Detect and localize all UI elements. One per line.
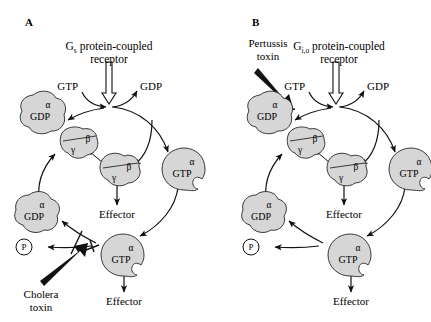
gtp-label-right-b: GTP [400,168,419,179]
receptor-title-line2-b: receptor [320,53,358,66]
gamma-label-free-a: γ [111,173,116,183]
phosphate-label-a: P [21,242,26,252]
alpha-label-top-a: α [46,100,51,110]
alpha-label-right-b: α [417,157,422,167]
receptor-g-b: G [293,40,301,52]
effector-alpha-a: Effector [106,295,142,307]
gdp-label-bottom-b: GDP [251,211,271,222]
gdp-label-top-a: GDP [30,111,50,122]
cholera-toxin-label-line1-a: Cholera [24,288,59,300]
alpha-label-bottom-b: α [267,200,272,210]
pertussis-toxin-label-line1-b: Pertussis [248,37,287,49]
gtp-label-bottom-b: GTP [339,254,358,265]
gamma-label-top-b: γ [297,145,302,155]
gamma-label-top-a: γ [70,145,75,155]
gdp-label-a: GDP [140,80,162,92]
beta-label-top-a: β [86,134,91,144]
g-protein-cycle-figure: A Gs protein-coupled receptor GTP GDP α … [0,0,431,322]
receptor-g-a: G [66,40,74,52]
panel-letter-b: B [252,16,260,28]
panel-letter-a: A [25,16,33,28]
text-layer: A Gs protein-coupled receptor GTP GDP α … [0,0,431,322]
beta-label-free-a: β [127,162,132,172]
beta-label-free-b: β [354,162,359,172]
pertussis-toxin-label-line2-b: toxin [257,50,280,62]
alpha-label-gtp-bottom-b: α [356,243,361,253]
receptor-rest-b: protein-coupled [309,40,385,53]
alpha-label-bottom-a: α [40,200,45,210]
effector-alpha-b: Effector [333,295,369,307]
gtp-label-a: GTP [57,80,78,92]
receptor-title-line2-a: receptor [90,53,128,66]
gdp-label-b: GDP [367,80,389,92]
gtp-label-b: GTP [284,80,305,92]
alpha-label-gtp-bottom-a: α [129,243,134,253]
effector-betagamma-a: Effector [99,208,135,220]
phosphate-label-b: P [248,242,253,252]
gtp-label-bottom-a: GTP [112,254,131,265]
gtp-label-right-a: GTP [173,168,192,179]
receptor-rest-a: protein-coupled [77,40,153,53]
gamma-label-free-b: γ [338,173,343,183]
beta-label-top-b: β [313,134,318,144]
cholera-toxin-label-line2-a: toxin [30,301,53,313]
effector-betagamma-b: Effector [326,208,362,220]
alpha-label-top-b: α [273,100,278,110]
gdp-label-top-b: GDP [257,111,277,122]
gdp-label-bottom-a: GDP [24,211,44,222]
alpha-label-right-a: α [190,157,195,167]
